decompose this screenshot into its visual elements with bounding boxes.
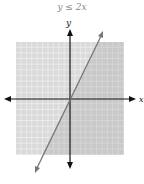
arrow-left-icon (4, 96, 11, 102)
arrow-down-icon (67, 162, 73, 169)
x-axis-label: x (139, 95, 144, 104)
line-arrow-down-icon (35, 166, 40, 173)
line-arrow-up-icon (98, 31, 103, 38)
arrow-up-icon (67, 29, 73, 36)
graph: y x (0, 0, 144, 184)
arrow-right-icon (129, 96, 136, 102)
y-axis-label: y (65, 18, 72, 28)
